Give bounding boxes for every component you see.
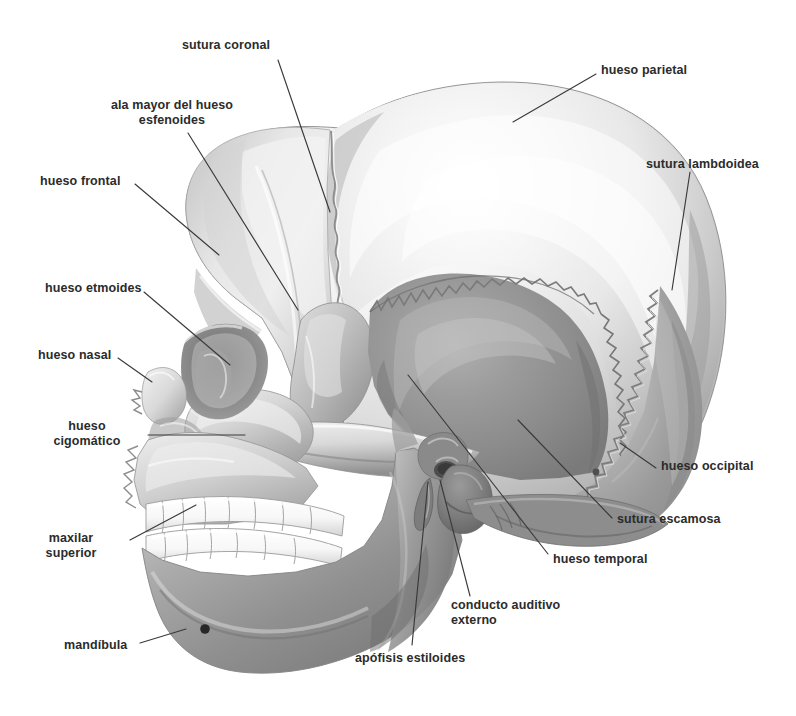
skull-diagram-figure: sutura coronal ala mayor del hueso esfen… — [0, 0, 796, 716]
leader-hueso-nasal — [118, 358, 152, 382]
label-ala-mayor-esfenoides: ala mayor del hueso esfenoides — [92, 98, 252, 128]
label-sutura-lambdoidea: sutura lambdoidea — [646, 157, 759, 172]
label-hueso-parietal: hueso parietal — [601, 63, 687, 78]
teeth-lower — [146, 529, 342, 566]
label-hueso-nasal: hueso nasal — [38, 348, 111, 363]
label-apofisis-estiloides: apófisis estiloides — [355, 651, 465, 666]
label-hueso-frontal: hueso frontal — [40, 174, 120, 189]
label-hueso-cigomatico: hueso cigomático — [22, 419, 152, 449]
label-conducto-auditivo-externo: conducto auditivo externo — [451, 598, 560, 628]
label-hueso-etmoides: hueso etmoides — [45, 281, 142, 296]
label-sutura-coronal: sutura coronal — [146, 38, 306, 53]
nasal-bone — [132, 368, 187, 425]
label-sutura-escamosa: sutura escamosa — [617, 512, 721, 527]
label-hueso-occipital: hueso occipital — [661, 459, 754, 474]
label-maxilar-superior: maxilar superior — [13, 531, 129, 561]
label-mandibula: mandíbula — [64, 638, 127, 653]
label-hueso-temporal: hueso temporal — [553, 552, 647, 567]
